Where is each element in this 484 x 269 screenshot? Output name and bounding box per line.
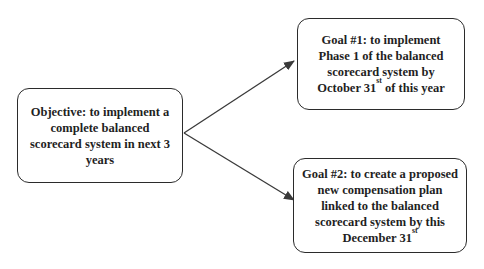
line-text: of this year [382, 81, 445, 95]
line-text: new compensation plan [317, 183, 442, 197]
goal2-text-line: linked to the balanced [321, 198, 439, 214]
ordinal-superscript: st [412, 226, 418, 235]
line-text: complete balanced [51, 121, 150, 135]
goal1-text-line: Goal #1: to implement [321, 32, 440, 48]
line-text: scorecard system in next 3 [30, 137, 170, 151]
objective-text-line: scorecard system in next 3 [30, 136, 170, 152]
diagram-canvas: Objective: to implement a complete balan… [0, 0, 484, 269]
line-text: Goal #1: to implement [321, 33, 440, 47]
goal2-text-line: new compensation plan [317, 182, 442, 198]
line-text: Phase 1 of the balanced [319, 49, 444, 63]
arrow-objective-to-goal1 [184, 61, 294, 133]
goal2-text-line: Goal #2: to create a proposed [302, 166, 458, 182]
line-text: October 31 [317, 81, 376, 95]
objective-text-line: Objective: to implement a [31, 104, 170, 120]
goal1-text-line: October 31st of this year [317, 80, 445, 96]
objective-box: Objective: to implement a complete balan… [17, 88, 183, 183]
line-text: Objective: to implement a [31, 105, 170, 119]
line-text: years [86, 153, 114, 167]
goal2-box: Goal #2: to create a proposed new compen… [293, 158, 467, 253]
goal1-text-line: Phase 1 of the balanced [319, 48, 444, 64]
objective-text-line: years [86, 152, 114, 168]
goal2-text-line: scorecard system by this [315, 214, 445, 230]
goal2-text-line: December 31st [342, 230, 417, 246]
objective-text-line: complete balanced [51, 120, 150, 136]
line-text: Goal #2: to create a proposed [302, 167, 458, 181]
line-text: December 31 [342, 231, 412, 245]
line-text: scorecard system by this [315, 215, 445, 229]
line-text: linked to the balanced [321, 199, 439, 213]
ordinal-superscript: st [376, 76, 382, 85]
arrow-objective-to-goal2 [184, 133, 294, 200]
goal1-box: Goal #1: to implement Phase 1 of the bal… [297, 18, 465, 110]
